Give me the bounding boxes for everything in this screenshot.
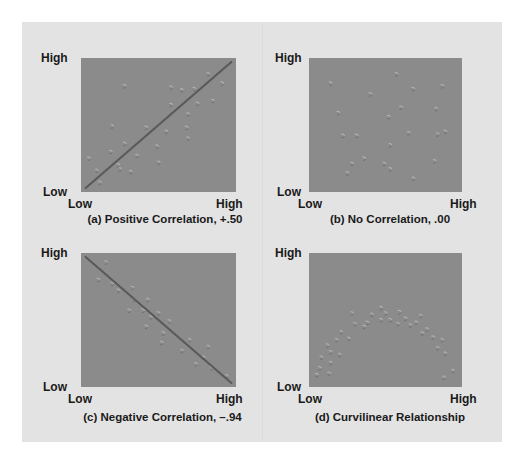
data-point	[169, 86, 172, 90]
data-point	[434, 107, 437, 111]
data-point	[436, 347, 439, 351]
data-point	[207, 73, 210, 77]
data-point	[320, 356, 323, 360]
data-point	[384, 312, 387, 316]
data-point	[329, 361, 332, 365]
data-point	[145, 126, 148, 130]
scatter-svg	[81, 58, 236, 192]
data-point	[117, 164, 120, 168]
data-point	[155, 145, 158, 149]
data-point	[329, 351, 332, 355]
data-point	[396, 322, 399, 326]
data-point	[186, 113, 189, 117]
x-tick-high: High	[216, 198, 243, 210]
data-point	[168, 320, 171, 324]
y-tick-high: High	[41, 52, 68, 64]
data-point	[408, 324, 411, 328]
data-point	[388, 168, 391, 172]
data-point	[338, 353, 341, 357]
y-tick-low: Low	[43, 381, 67, 393]
data-point	[326, 344, 329, 348]
data-point	[327, 372, 330, 376]
data-point	[157, 161, 160, 165]
data-point	[329, 82, 332, 86]
data-point	[388, 144, 391, 148]
data-point	[145, 325, 148, 329]
data-point	[411, 177, 414, 181]
data-point	[211, 99, 214, 103]
data-point	[436, 133, 439, 137]
scatter-svg	[309, 58, 462, 192]
data-point	[188, 339, 191, 343]
x-tick-high: High	[450, 393, 477, 405]
data-point	[196, 102, 199, 106]
data-point	[141, 309, 144, 313]
data-point	[146, 298, 149, 302]
data-point	[180, 349, 183, 353]
data-point	[362, 325, 365, 329]
data-point	[442, 376, 445, 380]
data-point	[341, 134, 344, 138]
y-tick-high: High	[41, 247, 68, 259]
data-point	[425, 328, 428, 332]
data-point	[110, 125, 113, 129]
data-point	[444, 130, 447, 134]
y-tick-high: High	[275, 247, 302, 259]
data-point	[117, 289, 120, 293]
data-point	[95, 169, 98, 173]
plot-area	[309, 253, 462, 387]
x-tick-low: Low	[298, 198, 322, 210]
data-point	[315, 373, 318, 377]
data-point	[185, 126, 188, 130]
data-point	[399, 106, 402, 110]
data-point	[355, 134, 358, 138]
data-point	[110, 282, 113, 286]
data-point	[149, 316, 152, 320]
data-point	[336, 111, 339, 115]
data-point	[366, 321, 369, 325]
data-point	[335, 339, 338, 343]
panel-seam	[262, 22, 263, 442]
y-tick-high: High	[275, 52, 302, 64]
data-point	[165, 130, 168, 134]
data-point	[353, 322, 356, 326]
data-point	[350, 312, 353, 316]
data-point	[398, 310, 401, 314]
data-point	[186, 137, 189, 141]
data-point	[388, 318, 391, 322]
trend-line	[86, 257, 232, 383]
data-point	[347, 337, 350, 341]
data-point	[340, 330, 343, 334]
data-point	[379, 306, 382, 310]
data-point	[421, 332, 424, 336]
data-point	[157, 312, 160, 316]
data-point	[127, 309, 130, 313]
data-point	[350, 162, 353, 166]
scatter-svg	[309, 253, 462, 387]
data-point	[194, 363, 197, 367]
data-point	[431, 336, 434, 340]
data-point	[207, 345, 210, 349]
data-point	[109, 150, 112, 154]
data-point	[129, 170, 132, 174]
data-point	[419, 314, 422, 318]
data-point	[318, 367, 321, 371]
x-tick-low: Low	[298, 393, 322, 405]
data-point	[180, 89, 183, 93]
x-tick-low: Low	[68, 198, 92, 210]
data-point	[382, 162, 385, 166]
data-point	[123, 85, 126, 89]
data-point	[123, 142, 126, 146]
data-point	[346, 172, 349, 176]
data-point	[444, 352, 447, 356]
data-point	[387, 115, 390, 119]
data-point	[220, 82, 223, 86]
chart-caption: (b) No Correlation, .00	[310, 213, 470, 225]
x-tick-high: High	[450, 198, 477, 210]
data-point	[369, 93, 372, 97]
data-point	[451, 369, 454, 373]
chart-caption: (c) Negative Correlation, –.94	[75, 411, 250, 423]
data-point	[441, 339, 444, 343]
data-point	[96, 278, 99, 282]
data-point	[104, 261, 107, 265]
